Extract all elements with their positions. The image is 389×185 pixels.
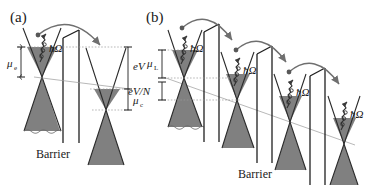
figure-root: (a) (b) μ e ħΩ eV μ c Barrier μ L eV/N ħ… — [0, 0, 389, 185]
band-diagram-svg: (a) (b) μ e ħΩ eV μ c Barrier μ L eV/N ħ… — [0, 0, 389, 185]
cone-b3-filled-lower — [275, 122, 306, 170]
barrier-b1-top-slant — [204, 24, 219, 32]
electron-dot-b-2 — [234, 48, 239, 53]
label-barrier-b: Barrier — [238, 167, 272, 181]
label-hbar-omega-b4: ħΩ — [350, 108, 364, 120]
electron-dot-a — [36, 33, 41, 38]
barrier-a-top-slant — [63, 30, 79, 38]
label-hbar-omega-a: ħΩ — [49, 42, 63, 54]
panel-a-label: (a) — [10, 9, 27, 26]
measure-a-mu-e — [17, 47, 25, 77]
cone-a-right-filled-lower — [88, 110, 124, 165]
label-mu-e: μ — [6, 57, 13, 69]
label-hbar-omega-b1: ħΩ — [190, 42, 204, 54]
dirac-cone-a-right — [86, 48, 126, 165]
measure-b-mu-L — [158, 50, 166, 78]
measure-b-eVN — [158, 82, 166, 100]
label-mu-e-subscript: e — [14, 64, 17, 72]
barrier-b-1 — [204, 24, 219, 142]
panel-a — [17, 25, 132, 165]
barrier-b2-top-slant — [257, 46, 272, 54]
barrier-b-3 — [310, 68, 325, 185]
label-barrier-a: Barrier — [36, 147, 70, 161]
label-hbar-omega-b3: ħΩ — [296, 86, 310, 98]
label-mu-L: μ — [146, 57, 153, 69]
measure-a-eV — [124, 47, 132, 89]
barrier-b3-top-slant — [310, 68, 325, 76]
electron-dot-b-1 — [180, 26, 185, 31]
cone-a-left-filled-lower — [24, 77, 60, 131]
cone-b1-filled-lower — [168, 78, 202, 127]
barrier-b-2 — [257, 46, 272, 163]
cone-b4-filled-lower — [330, 144, 358, 185]
label-eV: eV — [133, 60, 146, 72]
label-hbar-omega-b2: ħΩ — [243, 64, 257, 76]
panel-b-label: (b) — [146, 9, 164, 26]
label-eV-over-N: eV/N — [128, 85, 151, 97]
label-mu-c-subscript: c — [140, 101, 143, 109]
panel-b — [158, 19, 360, 185]
electron-dot-b-3 — [287, 70, 292, 75]
label-mu-L-subscript: L — [154, 64, 158, 72]
